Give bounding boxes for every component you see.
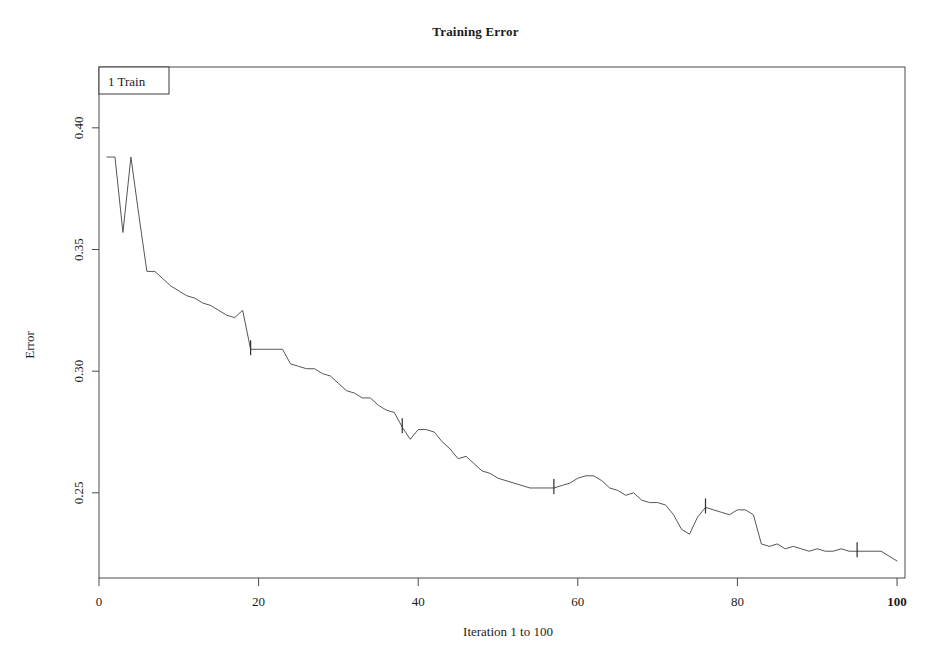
x-tick-label: 60: [571, 594, 584, 609]
x-tick-label: 80: [731, 594, 744, 609]
y-axis-title: Error: [22, 331, 37, 359]
x-tick-label: 0: [96, 594, 103, 609]
x-axis-ticks: 020406080100: [96, 578, 907, 609]
x-axis-title: Iteration 1 to 100: [463, 624, 553, 639]
x-tick-label: 40: [412, 594, 425, 609]
data-marker-group: [251, 340, 857, 557]
series-line-train: [107, 157, 897, 561]
x-tick-label: 20: [252, 594, 265, 609]
x-tick-label: 100: [887, 594, 907, 609]
training-error-line-chart: 0.250.300.350.40 020406080100 Error Iter…: [0, 0, 951, 659]
y-tick-label: 0.40: [71, 116, 86, 139]
y-tick-label: 0.30: [71, 360, 86, 383]
legend[interactable]: 1 Train: [99, 67, 169, 94]
chart-figure: Training Error 0.250.300.350.40 02040608…: [0, 0, 951, 659]
y-tick-label: 0.25: [71, 481, 86, 504]
y-axis-ticks: 0.250.300.350.40: [71, 116, 99, 504]
plot-frame: [99, 67, 905, 578]
legend-item-train: 1 Train: [108, 74, 146, 89]
y-tick-label: 0.35: [71, 238, 86, 261]
data-series-group: [107, 157, 897, 561]
